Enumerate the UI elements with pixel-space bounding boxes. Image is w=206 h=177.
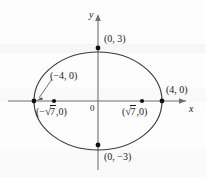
label-top-vertex: (0, 3) [104,34,126,44]
paper-band [0,150,206,177]
label-right-focus: (√7,0) [122,106,147,117]
point-bottom-vertex [96,143,101,148]
label-right-focus-close: ,0) [136,106,147,117]
ellipse-figure: y x 0 (0, 3) (4, 0) (0, −3) (−4, 0) (−√7… [0,0,206,177]
point-left-focus [52,99,56,103]
label-left-vertex: (−4, 0) [50,71,77,81]
origin-label: 0 [90,104,95,113]
label-left-focus-open: (− [36,106,45,117]
label-bottom-vertex: (0, −3) [104,152,131,162]
y-axis-label: y [89,10,93,20]
label-left-focus: (−√7,0) [36,106,67,117]
label-right-vertex: (4, 0) [166,85,188,95]
point-top-vertex [96,46,101,51]
point-right-focus [140,99,144,103]
label-left-focus-close: ,0) [56,106,67,117]
x-axis-label: x [189,104,193,114]
point-right-vertex [160,99,165,104]
point-left-vertex [32,99,37,104]
label-left-focus-arg: 7 [50,105,56,117]
label-right-focus-arg: 7 [130,105,136,117]
